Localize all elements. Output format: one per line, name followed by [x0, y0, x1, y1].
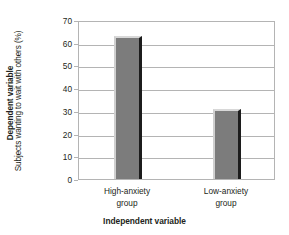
x-axis-category-label: High-anxietygroup	[79, 186, 175, 209]
bar	[114, 36, 142, 179]
x-axis-category-label-line: High-anxiety	[104, 186, 150, 196]
y-axis-tick-mark	[74, 180, 78, 181]
y-axis-title-inner: Subjects wanting to wait with others (%)	[15, 26, 27, 176]
x-axis-category-label-line: group	[178, 198, 274, 210]
plot-area	[78, 21, 275, 180]
y-axis-tick-label: 40	[50, 85, 72, 93]
x-axis-category-label: Low-anxietygroup	[178, 186, 274, 209]
y-axis-tick-label: 60	[50, 40, 72, 48]
bar	[213, 109, 241, 179]
gridline	[79, 45, 274, 46]
y-axis-tick-labels: 706050403020100	[50, 21, 72, 180]
y-axis-tick-label: 50	[50, 62, 72, 70]
y-axis-tick-label: 30	[50, 108, 72, 116]
x-axis-category-label-line: Low-anxiety	[204, 186, 248, 196]
gridline	[79, 90, 274, 91]
y-axis-tick-label: 70	[50, 17, 72, 25]
y-axis-tick-label: 0	[50, 176, 72, 184]
gridline	[79, 158, 274, 159]
gridline	[79, 136, 274, 137]
y-axis-tick-label: 20	[50, 131, 72, 139]
x-axis-category-label-line: group	[79, 198, 175, 210]
gridline	[79, 113, 274, 114]
x-axis-title: Independent variable	[0, 216, 289, 226]
gridline	[79, 67, 274, 68]
bar-chart: Dependent variable Subjects wanting to w…	[0, 0, 289, 235]
y-axis-tick-label: 10	[50, 153, 72, 161]
